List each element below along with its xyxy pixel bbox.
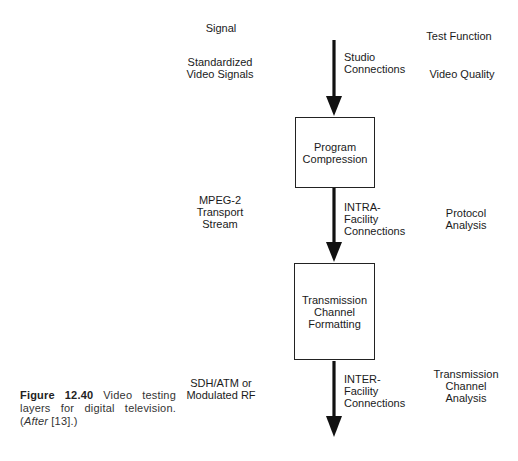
test-function-line: Analysis	[424, 392, 508, 404]
connection-line: Connections	[344, 63, 405, 75]
connection-line: INTER-	[344, 373, 405, 385]
block-transmission-channel-formatting: Transmission Channel Formatting	[294, 263, 375, 360]
signal-line: Transport	[190, 206, 250, 218]
connection-inter-facility: INTER- Facility Connections	[344, 373, 405, 409]
block-program-compression: Program Compression	[295, 117, 375, 188]
test-transmission-channel-analysis: Transmission Channel Analysis	[424, 368, 508, 404]
figure-caption: Figure 12.40 Video testing layers for di…	[20, 389, 176, 428]
signal-column-header: Signal	[196, 22, 246, 34]
test-function-line: Channel	[424, 380, 508, 392]
test-function-column-header: Test Function	[414, 30, 504, 42]
block-line: Formatting	[302, 318, 367, 330]
signal-line: Standardized	[180, 56, 260, 68]
test-protocol-analysis: Protocol Analysis	[434, 207, 498, 231]
test-function-line: Protocol	[434, 207, 498, 219]
connection-line: Connections	[344, 225, 405, 237]
signal-sdh-atm-rf: SDH/ATM or Modulated RF	[181, 377, 261, 401]
connection-line: Connections	[344, 397, 405, 409]
connection-studio: Studio Connections	[344, 51, 405, 75]
arrowhead-intra	[326, 242, 342, 262]
test-video-quality: Video Quality	[422, 68, 502, 80]
block-line: Channel	[302, 306, 367, 318]
test-function-line: Analysis	[434, 219, 498, 231]
arrowhead-studio	[326, 96, 342, 116]
block-line: Program	[303, 141, 368, 153]
signal-line: Modulated RF	[181, 389, 261, 401]
caption-after: After	[24, 415, 48, 427]
block-line: Transmission	[302, 294, 367, 306]
caption-reference: [13].)	[48, 415, 78, 427]
connection-intra-facility: INTRA- Facility Connections	[344, 201, 405, 237]
connection-line: Facility	[344, 385, 405, 397]
test-function-line: Video Quality	[422, 68, 502, 80]
figure-label: Figure 12.40	[20, 389, 93, 401]
test-function-line: Transmission	[424, 368, 508, 380]
signal-line: Stream	[190, 218, 250, 230]
connection-line: Facility	[344, 213, 405, 225]
signal-mpeg2-transport: MPEG-2 Transport Stream	[190, 194, 250, 230]
connection-line: Studio	[344, 51, 405, 63]
signal-line: MPEG-2	[190, 194, 250, 206]
block-line: Compression	[303, 153, 368, 165]
signal-standardized-video: Standardized Video Signals	[180, 56, 260, 80]
signal-line: SDH/ATM or	[181, 377, 261, 389]
arrowhead-inter	[326, 416, 342, 437]
signal-line: Video Signals	[180, 68, 260, 80]
connection-line: INTRA-	[344, 201, 405, 213]
